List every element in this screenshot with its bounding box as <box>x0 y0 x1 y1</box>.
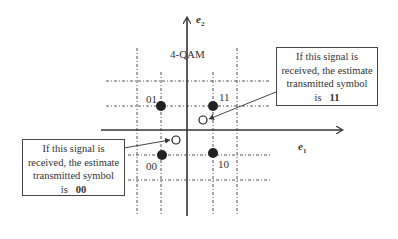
annotation-line: If this signal is <box>277 50 377 64</box>
annotation-line: is 00 <box>23 183 124 197</box>
annotation-line: received, the estimate <box>277 64 377 78</box>
point-label-00: 00 <box>146 161 157 172</box>
constellation-diagram <box>0 0 398 239</box>
received-signal-00 <box>172 136 180 144</box>
annotation-line: is 11 <box>277 91 377 105</box>
annotation-box-11: If this signal is received, the estimate… <box>276 47 378 106</box>
received-signal-11 <box>199 116 207 124</box>
annotation-line: transmitted symbol <box>23 169 124 183</box>
diagram-title: 4-QAM <box>170 49 205 60</box>
constellation-point-00 <box>157 150 167 160</box>
pointer-line-00 <box>124 140 170 148</box>
point-label-10: 10 <box>218 159 229 170</box>
annotation-line: transmitted symbol <box>277 77 377 91</box>
point-label-01: 01 <box>146 94 157 105</box>
constellation-point-01 <box>156 101 166 111</box>
axis-label-e2: e2 <box>196 13 204 28</box>
constellation-point-10 <box>208 148 218 158</box>
estimated-symbol: 11 <box>329 92 339 103</box>
point-label-11: 11 <box>219 92 230 103</box>
annotation-box-00: If this signal is received, the estimate… <box>22 139 125 196</box>
annotation-line: If this signal is <box>23 142 124 156</box>
grid-lines <box>106 48 270 216</box>
axis-label-e1: e1 <box>298 140 306 155</box>
constellation-point-11 <box>208 101 218 111</box>
annotation-line: received, the estimate <box>23 156 124 170</box>
estimated-symbol: 00 <box>76 184 87 195</box>
